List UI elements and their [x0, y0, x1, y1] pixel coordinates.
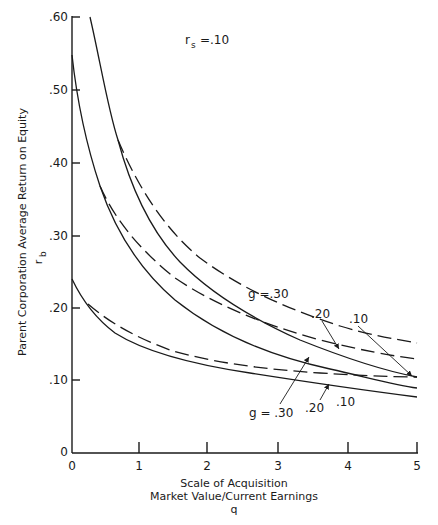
svg-text:b: b [38, 251, 48, 257]
y-tick: .60 [49, 10, 68, 24]
y-tick: 0 [60, 445, 68, 459]
x-axis-title: Scale of Acquisition [180, 477, 287, 490]
arrow-upper-20 [322, 321, 339, 349]
y-tick: .40 [49, 156, 68, 170]
x-axis [72, 442, 418, 453]
y-tick: .20 [49, 301, 68, 315]
chart-canvas: .60 .50 .40 .30 .20 .10 0 0 1 2 3 4 5 Sc… [0, 0, 438, 525]
label-lower-10: .10 [336, 395, 355, 409]
y-axis-symbol: r b [32, 251, 48, 264]
label-lower-g30: g = .30 [249, 406, 293, 420]
x-tick: 1 [135, 459, 143, 473]
arrow-lower-g30 [280, 357, 309, 404]
label-upper-20: .20 [311, 307, 330, 321]
x-tick: 3 [274, 459, 282, 473]
label-upper-10: .10 [349, 312, 368, 326]
curve-lower-solid [72, 279, 417, 397]
y-tick: .10 [49, 373, 68, 387]
label-arrows [280, 321, 412, 404]
rs-annotation: r s =.10 [185, 33, 229, 50]
svg-text:s: s [191, 40, 196, 50]
x-axis-symbol: q [231, 503, 238, 516]
svg-text:r: r [32, 259, 45, 264]
x-axis-subtitle: Market Value/Current Earnings [150, 490, 318, 503]
x-tick: 4 [344, 459, 352, 473]
x-tick-labels: 0 1 2 3 4 5 [68, 459, 421, 473]
x-tick: 0 [68, 459, 76, 473]
y-axis-title: Parent Corporation Average Return on Equ… [16, 108, 29, 356]
y-tick: .50 [49, 83, 68, 97]
label-upper-g30: g =.30 [248, 287, 289, 301]
curves [72, 17, 417, 397]
y-tick: .30 [49, 229, 68, 243]
arrow-lower-20 [320, 384, 329, 400]
x-tick: 5 [413, 459, 421, 473]
svg-text:r: r [185, 33, 190, 47]
y-tick-labels: .60 .50 .40 .30 .20 .10 0 [49, 10, 68, 459]
label-lower-20: .20 [305, 401, 324, 415]
x-tick: 2 [203, 459, 211, 473]
svg-text:=.10: =.10 [200, 33, 229, 47]
